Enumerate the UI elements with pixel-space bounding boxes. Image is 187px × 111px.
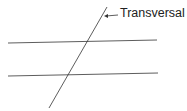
transversal-label: Transversal <box>120 6 185 20</box>
transversal-line <box>49 7 107 108</box>
arrow-icon <box>104 14 118 18</box>
parallel-line-bottom <box>8 73 158 76</box>
parallel-line-top <box>8 40 157 43</box>
